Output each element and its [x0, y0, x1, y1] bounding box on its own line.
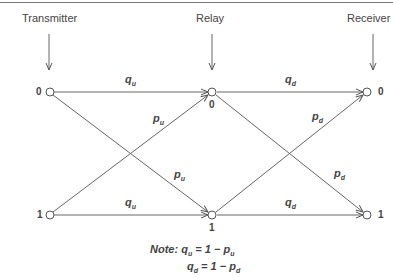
transmitter-node-1-label: 1	[37, 209, 43, 220]
label-qu-bottom: qu	[125, 196, 136, 210]
transmitter-node-0-label: 0	[36, 86, 42, 97]
header-arrows	[49, 34, 373, 70]
relay-node-1	[208, 211, 216, 219]
label-pu-cross-down: pu	[174, 168, 185, 182]
receiver-node-0	[363, 88, 371, 96]
label-qd-bottom: qd	[285, 196, 296, 210]
label-qu-top: qu	[125, 73, 136, 87]
receiver-node-1	[363, 211, 371, 219]
label-pd-cross-down: pd	[334, 167, 345, 181]
note-block: Note: qu = 1 − pu qd = 1 − pd	[150, 243, 240, 277]
note-line-1: Note: qu = 1 − pu	[150, 243, 240, 260]
label-pd-cross-up: pd	[312, 110, 323, 124]
relay-node-1-label: 1	[209, 222, 215, 233]
label-qd-top: qd	[285, 73, 296, 87]
transmitter-node-0	[46, 88, 54, 96]
transmitter-node-1	[46, 211, 54, 219]
receiver-node-1-label: 1	[378, 209, 384, 220]
receiver-node-0-label: 0	[378, 86, 384, 97]
relay-node-0	[208, 88, 216, 96]
relay-node-0-label: 0	[209, 99, 215, 110]
label-pu-cross-up: pu	[153, 112, 164, 126]
note-line-2: qd = 1 − pd	[150, 260, 240, 277]
